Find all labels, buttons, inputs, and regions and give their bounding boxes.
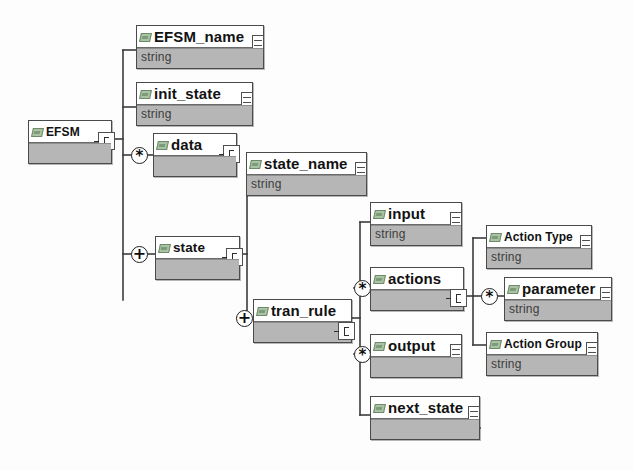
node-actions-body [371,290,463,310]
element-icon [374,403,385,413]
node-output[interactable]: output [370,334,462,378]
element-icon [490,339,501,349]
node-state-header: state [156,237,239,259]
connector-tran-rule-plus[interactable]: + [236,310,253,327]
node-next-state-body [371,419,479,439]
node-action-type-body: string [487,248,591,268]
node-efsm[interactable]: EFSM [28,120,112,164]
element-icon [157,140,168,150]
node-action-type-type: string [491,250,522,264]
node-data[interactable]: data [153,133,237,177]
connector-parameter-star-symbol: * [482,292,497,303]
node-action-type-header: Action Type [487,226,591,248]
element-icon [159,243,170,253]
element-icon [32,127,43,137]
node-init-state-body: string [137,105,252,125]
connector-actions-star-symbol: * [355,284,370,295]
node-actions-label: actions [388,270,441,287]
element-icon [374,274,385,284]
node-init-state-label: init_state [154,85,221,102]
connector-state-plus[interactable]: + [131,246,148,263]
node-input[interactable]: input string [370,202,462,246]
element-icon [490,232,501,242]
node-efsm-header: EFSM [29,121,111,143]
node-efsm-name-type: string [141,50,172,64]
node-init-state[interactable]: init_state string [136,82,253,126]
element-icon [374,341,385,351]
node-state-name-type: string [251,177,282,191]
node-next-state[interactable]: next_state [370,396,480,440]
connector-state-plus-symbol: + [132,247,147,261]
node-efsm-name-label: EFSM_name [154,28,244,45]
connector-tran-rule-plus-symbol: + [237,311,252,325]
node-efsm-name[interactable]: EFSM_name string [136,25,264,69]
node-state[interactable]: state [155,236,240,280]
node-init-state-type: string [141,107,172,121]
node-actions-header: actions [371,268,463,290]
connector-actions-star[interactable]: * [354,280,371,297]
node-input-header: input [371,203,461,225]
node-action-group-type: string [491,357,522,371]
node-efsm-body [29,143,111,163]
node-input-type: string [375,227,406,241]
element-icon [250,159,261,169]
expand-bracket-icon[interactable] [338,322,355,340]
node-efsm-name-header: EFSM_name [137,26,263,48]
element-icon [257,306,268,316]
node-data-label: data [171,136,202,153]
node-action-group-body: string [487,355,597,375]
element-icon [140,32,151,42]
node-parameter[interactable]: parameter string [504,277,612,321]
node-efsm-label: EFSM [46,125,80,139]
element-icon [140,89,151,99]
node-data-body [154,156,236,176]
node-tran-rule[interactable]: tran_rule [253,299,352,343]
node-action-group-label: Action Group [504,337,582,351]
node-output-label: output [388,337,435,354]
connector-parameter-star[interactable]: * [481,288,498,305]
schema-diagram-canvas: EFSM EFSM_name string init_state [0,0,634,470]
node-next-state-header: next_state [371,397,479,419]
connector-output-star-symbol: * [355,350,370,361]
node-state-name-body: string [247,175,366,195]
node-data-header: data [154,134,236,156]
node-tran-rule-header: tran_rule [254,300,351,322]
node-efsm-name-body: string [137,48,263,68]
element-icon [508,284,519,294]
node-state-body [156,259,239,279]
node-state-name-label: state_name [264,155,348,172]
node-parameter-body: string [505,300,611,320]
connector-output-star[interactable]: * [354,346,371,363]
element-icon [374,209,385,219]
node-action-group[interactable]: Action Group string [486,332,598,376]
node-actions[interactable]: actions [370,267,464,311]
node-tran-rule-label: tran_rule [271,302,336,319]
node-parameter-type: string [509,302,540,316]
node-next-state-label: next_state [388,399,463,416]
node-input-body: string [371,225,461,245]
node-action-type-label: Action Type [504,230,573,244]
node-action-group-header: Action Group [487,333,597,355]
node-state-name[interactable]: state_name string [246,152,367,196]
node-output-header: output [371,335,461,357]
node-parameter-label: parameter [522,280,595,297]
node-state-label: state [173,240,205,255]
node-action-type[interactable]: Action Type string [486,225,592,269]
node-output-body [371,357,461,377]
node-tran-rule-body [254,322,351,342]
node-init-state-header: init_state [137,83,252,105]
expand-bracket-icon[interactable] [450,289,467,307]
connector-data-star-symbol: * [132,151,147,162]
node-state-name-header: state_name [247,153,366,175]
node-parameter-header: parameter [505,278,611,300]
node-input-label: input [388,205,425,222]
connector-data-star[interactable]: * [131,147,148,164]
